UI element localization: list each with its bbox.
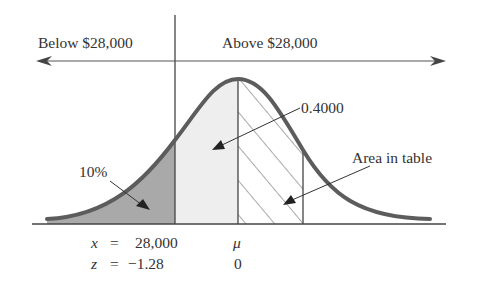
left-tail-region (30, 60, 175, 224)
z-equals-sign: = (110, 255, 119, 272)
table-pointer-line (292, 166, 370, 200)
tail-percent-label: 10% (79, 163, 108, 180)
normal-distribution-diagram: Below $28,000 Above $28,000 10% 0.4000 A… (0, 0, 477, 291)
z-value-label: −1.28 (128, 255, 164, 272)
area-in-table-label: Area in table (352, 149, 432, 166)
middle-area-label: 0.4000 (301, 99, 344, 116)
x-variable-label: x (90, 234, 98, 251)
x-value-label: 28,000 (135, 234, 178, 251)
x-equals-sign: = (110, 234, 119, 251)
below-label: Below $28,000 (38, 34, 133, 51)
zero-label: 0 (234, 255, 242, 272)
z-variable-label: z (90, 255, 97, 272)
mu-label: μ (232, 234, 241, 251)
above-label: Above $28,000 (222, 34, 318, 51)
